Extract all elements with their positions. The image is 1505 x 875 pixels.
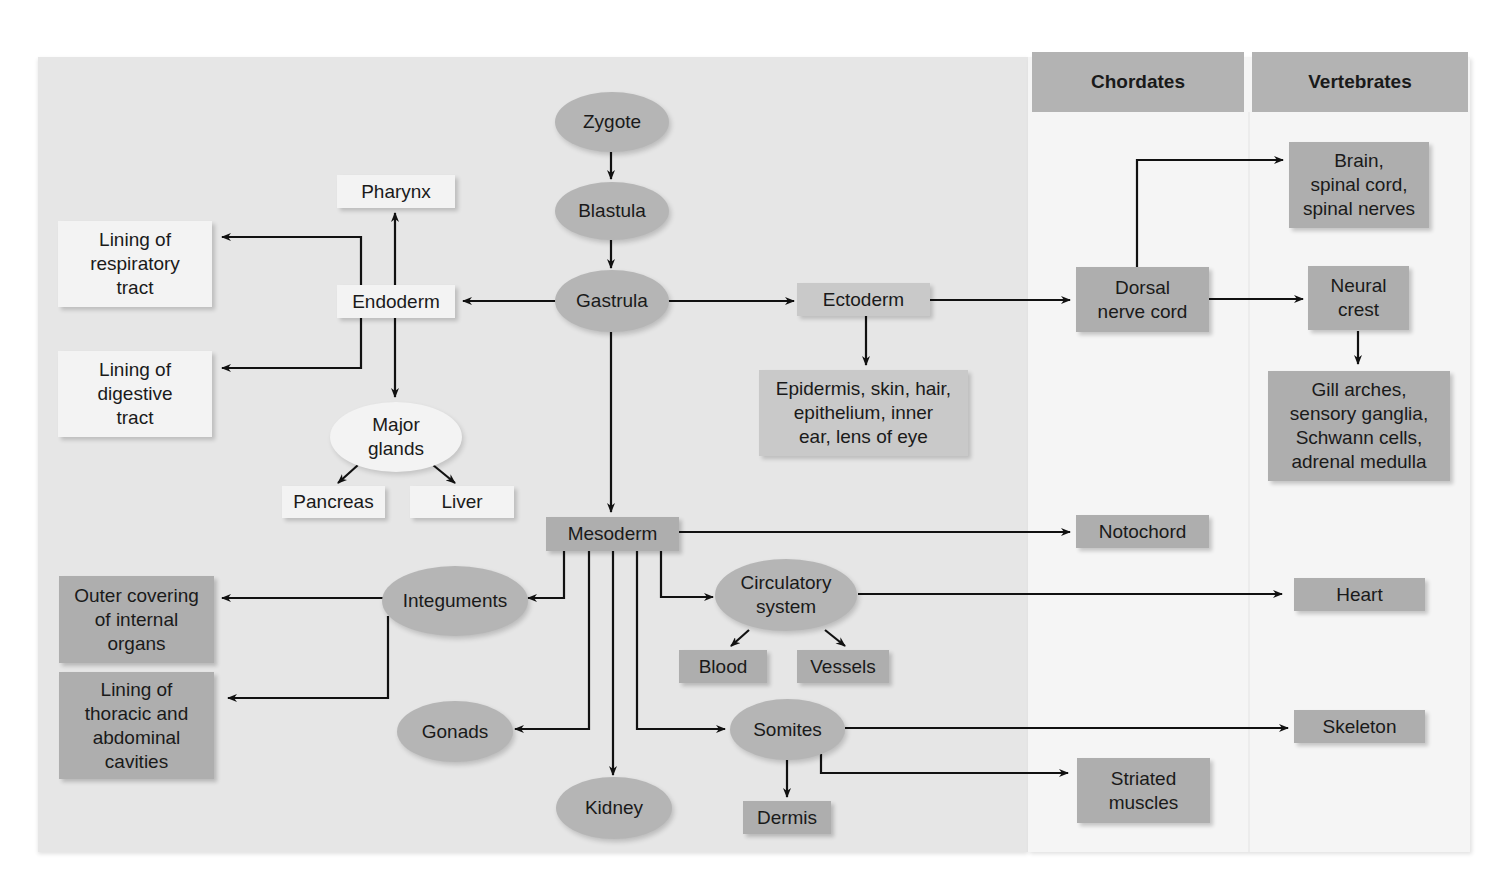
- node-integuments: Integuments: [382, 566, 528, 636]
- node-blastula: Blastula: [555, 182, 669, 240]
- node-lining-thoracic: Lining of thoracic and abdominal cavitie…: [59, 672, 214, 779]
- node-gill-arches: Gill arches, sensory ganglia, Schwann ce…: [1268, 371, 1450, 481]
- node-gastrula: Gastrula: [555, 270, 669, 332]
- node-lining-digestive: Lining of digestive tract: [58, 351, 212, 437]
- node-lining-respiratory: Lining of respiratory tract: [58, 221, 212, 307]
- node-major-glands: Major glands: [330, 402, 462, 472]
- node-dermis: Dermis: [743, 801, 831, 834]
- node-blood: Blood: [679, 650, 767, 683]
- node-brain: Brain, spinal cord, spinal nerves: [1289, 142, 1429, 228]
- node-heart: Heart: [1294, 578, 1425, 611]
- node-striated-muscles: Striated muscles: [1077, 758, 1210, 823]
- node-pancreas: Pancreas: [282, 486, 385, 518]
- node-mesoderm: Mesoderm: [546, 517, 679, 551]
- node-somites: Somites: [730, 699, 845, 760]
- node-outer-covering: Outer covering of internal organs: [59, 576, 214, 663]
- node-epidermis: Epidermis, skin, hair, epithelium, inner…: [759, 370, 968, 456]
- node-kidney: Kidney: [556, 777, 672, 839]
- node-skeleton: Skeleton: [1294, 710, 1425, 743]
- node-circulatory-system: Circulatory system: [715, 559, 857, 631]
- node-ectoderm: Ectoderm: [797, 283, 930, 316]
- node-dorsal-nerve-cord: Dorsal nerve cord: [1076, 267, 1209, 332]
- node-pharynx: Pharynx: [337, 175, 455, 208]
- node-zygote: Zygote: [555, 92, 669, 152]
- node-notochord: Notochord: [1076, 515, 1209, 548]
- node-vessels: Vessels: [797, 650, 889, 683]
- node-liver: Liver: [410, 486, 514, 518]
- node-neural-crest: Neural crest: [1308, 266, 1409, 330]
- node-gonads: Gonads: [397, 701, 513, 762]
- node-endoderm: Endoderm: [337, 285, 455, 318]
